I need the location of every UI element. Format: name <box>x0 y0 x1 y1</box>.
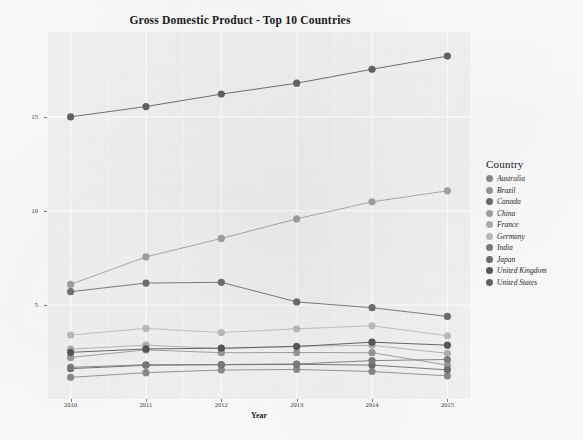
legend-swatch-icon <box>486 256 493 263</box>
data-point <box>218 345 225 352</box>
x-tick-mark <box>221 399 222 402</box>
x-tick-mark <box>146 399 147 402</box>
data-point <box>142 103 149 110</box>
legend-item-label: Australia <box>497 174 525 183</box>
legend-item-china[interactable]: China <box>486 208 581 220</box>
data-point <box>444 187 451 194</box>
data-point <box>218 235 225 242</box>
data-point <box>67 331 74 338</box>
data-point <box>368 339 375 346</box>
legend-swatch-icon <box>486 221 493 228</box>
y-tick-label: 10 <box>10 207 38 214</box>
data-point <box>142 253 149 260</box>
gdp-line-chart: Gross Domestic Product - Top 10 Countrie… <box>0 0 583 440</box>
x-tick-mark <box>71 399 72 402</box>
legend-swatch-icon <box>486 175 493 182</box>
legend-item-label: India <box>497 243 513 252</box>
data-point <box>368 66 375 73</box>
x-tick-mark <box>297 399 298 402</box>
x-tick-label: 2011 <box>126 401 166 408</box>
legend-item-label: Germany <box>497 232 525 241</box>
legend-swatch-icon <box>486 267 493 274</box>
legend-item-label: France <box>497 220 519 229</box>
data-point <box>67 374 74 381</box>
data-point <box>444 342 451 349</box>
data-point <box>67 349 74 356</box>
data-point <box>293 80 300 87</box>
x-tick-label: 2015 <box>427 401 467 408</box>
plot-area-svg <box>48 32 470 399</box>
legend-item-canada[interactable]: Canada <box>486 196 581 208</box>
data-point <box>142 345 149 352</box>
data-point <box>67 288 74 295</box>
legend-swatch-icon <box>486 210 493 217</box>
legend-title: Country <box>486 158 581 170</box>
legend-items: AustraliaBrazilCanadaChinaFranceGermanyI… <box>486 173 581 288</box>
legend-item-india[interactable]: India <box>486 242 581 254</box>
data-point <box>444 52 451 59</box>
x-tick-mark <box>372 399 373 402</box>
legend-item-label: Japan <box>497 255 515 264</box>
data-point <box>293 325 300 332</box>
data-point <box>67 281 74 288</box>
plot-panel <box>48 32 470 399</box>
data-point <box>444 356 451 363</box>
data-point <box>293 360 300 367</box>
legend-swatch-icon <box>486 244 493 251</box>
legend-item-united-states[interactable]: United States <box>486 277 581 289</box>
legend-item-label: China <box>497 209 515 218</box>
legend-item-united-kingdom[interactable]: United Kingdom <box>486 265 581 277</box>
legend-item-germany[interactable]: Germany <box>486 231 581 243</box>
legend-item-japan[interactable]: Japan <box>486 254 581 266</box>
data-point <box>444 350 451 357</box>
y-tick-mark <box>44 211 47 212</box>
chart-title: Gross Domestic Product - Top 10 Countrie… <box>0 14 480 26</box>
legend-item-australia[interactable]: Australia <box>486 173 581 185</box>
legend-swatch-icon <box>486 187 493 194</box>
y-tick-mark <box>44 117 47 118</box>
data-point <box>218 361 225 368</box>
data-point <box>293 343 300 350</box>
data-point <box>368 198 375 205</box>
data-point <box>142 279 149 286</box>
data-point <box>293 298 300 305</box>
data-point <box>293 215 300 222</box>
legend-item-label: United Kingdom <box>497 266 547 275</box>
x-tick-label: 2012 <box>201 401 241 408</box>
legend-item-label: Brazil <box>497 186 515 195</box>
data-point <box>368 322 375 329</box>
data-point <box>368 368 375 375</box>
x-tick-mark <box>447 399 448 402</box>
y-tick-mark <box>44 305 47 306</box>
legend-swatch-icon <box>486 233 493 240</box>
legend-item-france[interactable]: France <box>486 219 581 231</box>
legend-item-brazil[interactable]: Brazil <box>486 185 581 197</box>
legend-item-label: Canada <box>497 197 521 206</box>
data-point <box>218 329 225 336</box>
data-point <box>142 369 149 376</box>
legend: Country AustraliaBrazilCanadaChinaFrance… <box>486 158 581 288</box>
data-point <box>368 349 375 356</box>
x-axis-title: Year <box>48 411 470 420</box>
x-tick-label: 2010 <box>51 401 91 408</box>
y-tick-label: 15 <box>10 113 38 120</box>
data-point <box>444 313 451 320</box>
data-point <box>368 357 375 364</box>
data-point <box>142 325 149 332</box>
data-point <box>67 364 74 371</box>
data-point <box>142 361 149 368</box>
data-point <box>368 304 375 311</box>
data-point <box>444 366 451 373</box>
x-tick-label: 2013 <box>277 401 317 408</box>
data-point <box>444 332 451 339</box>
data-point <box>218 91 225 98</box>
legend-swatch-icon <box>486 198 493 205</box>
legend-swatch-icon <box>486 279 493 286</box>
data-point <box>218 279 225 286</box>
x-tick-label: 2014 <box>352 401 392 408</box>
data-point <box>67 113 74 120</box>
y-tick-label: 5 <box>10 301 38 308</box>
legend-item-label: United States <box>497 278 537 287</box>
